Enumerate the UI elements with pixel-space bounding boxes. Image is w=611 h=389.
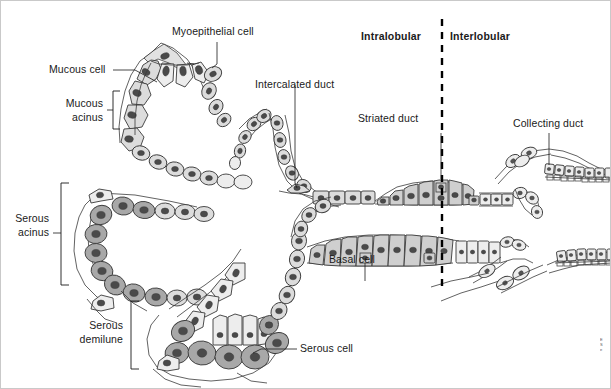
label-interlobular: Interlobular (450, 30, 510, 43)
label-mucous-acinus-line2: acinus (29, 111, 103, 124)
label-myoepithelial-cell: Myoepithelial cell (172, 25, 254, 38)
label-mucous-acinus-line1: Mucous (29, 97, 103, 110)
label-serous-demilune-line2: demilune (47, 333, 123, 346)
label-serous-acinus-line2: acinus (1, 226, 49, 239)
label-basal-cell: Basal cell (329, 253, 375, 266)
label-serous-demilune-line1: Serous (47, 319, 123, 332)
intercalated-duct-group (269, 113, 375, 207)
label-mucous-cell: Mucous cell (49, 63, 106, 76)
label-collecting-duct: Collecting duct (513, 117, 583, 130)
serous-demilune-group (147, 231, 307, 387)
label-intercalated-duct: Intercalated duct (255, 78, 334, 91)
label-intralobular: Intralobular (361, 30, 421, 43)
corner-source-mark: E S e (600, 337, 609, 387)
serous-acinus-group (74, 189, 214, 323)
corner-mark-line3: e (600, 347, 609, 352)
striated-duct-group (375, 180, 544, 220)
duct-branch-upper (228, 107, 273, 170)
collecting-duct-lower (547, 249, 611, 273)
figure-container: .o { stroke:#3a3a3a; stroke-width:0.9; }… (0, 0, 611, 389)
label-serous-cell: Serous cell (300, 342, 353, 355)
label-striated-duct: Striated duct (358, 112, 418, 125)
label-serous-acinus-line1: Serous (1, 212, 49, 225)
